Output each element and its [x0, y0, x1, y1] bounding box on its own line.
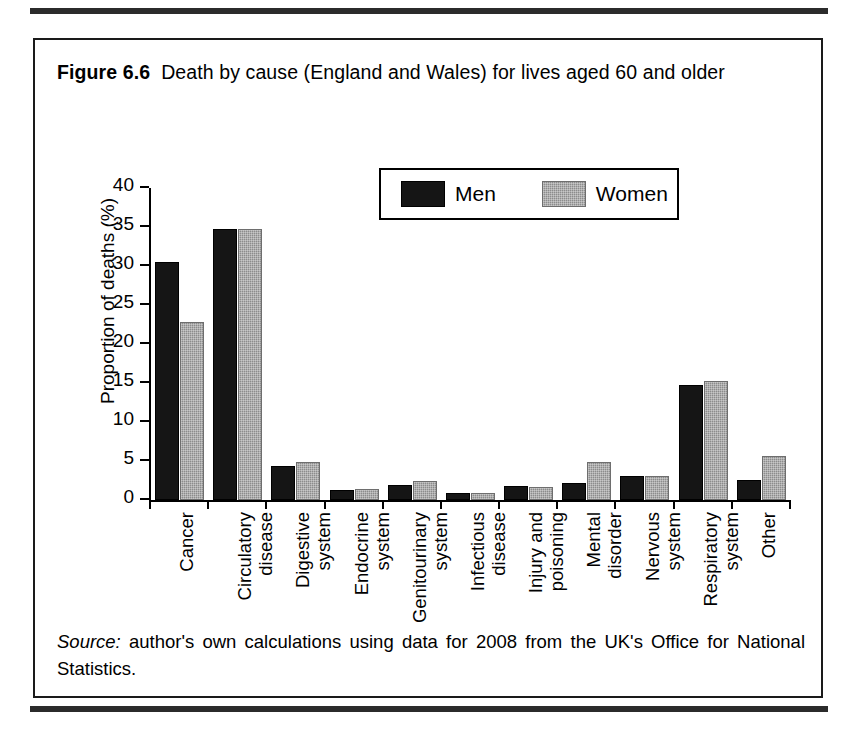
bar-group [382, 188, 440, 500]
y-tick-10: 10 [140, 420, 149, 422]
bar-group [731, 188, 789, 500]
x-tick [149, 500, 151, 509]
figure-caption: Figure 6.6 Death by cause (England and W… [57, 58, 797, 86]
y-tick-label-20: 20 [113, 330, 134, 352]
bar-women[interactable] [704, 381, 728, 500]
bar-men[interactable] [562, 483, 586, 500]
bar-group [498, 188, 556, 500]
y-tick-5: 5 [140, 459, 149, 461]
bar-women[interactable] [296, 462, 320, 500]
bar-women[interactable] [471, 493, 495, 500]
bar-group [324, 188, 382, 500]
bar-women[interactable] [587, 462, 611, 500]
y-tick-label-10: 10 [113, 408, 134, 430]
figure-caption-text: Death by cause (England and Wales) for l… [161, 61, 725, 83]
y-tick-25: 25 [140, 303, 149, 305]
x-tick [498, 500, 500, 509]
chart-axes: 0510152025303540 [149, 188, 789, 500]
figure-page: Figure 6.6 Death by cause (England and W… [0, 0, 858, 729]
y-tick-label-5: 5 [123, 447, 134, 469]
source-prefix: Source: [57, 631, 121, 652]
y-tick-label-35: 35 [113, 213, 134, 235]
x-tick [614, 500, 616, 509]
page-top-rule [30, 8, 828, 14]
bar-group [207, 188, 265, 500]
x-tick [556, 500, 558, 509]
bar-men[interactable] [213, 229, 237, 500]
y-tick-35: 35 [140, 225, 149, 227]
x-tick [382, 500, 384, 509]
bar-women[interactable] [355, 489, 379, 500]
bar-men[interactable] [330, 490, 354, 500]
y-tick-20: 20 [140, 342, 149, 344]
bar-women[interactable] [529, 487, 553, 500]
bar-men[interactable] [446, 493, 470, 500]
bar-group [556, 188, 614, 500]
figure-source: Source: author's own calculations using … [57, 628, 805, 682]
bar-men[interactable] [620, 476, 644, 500]
bar-women[interactable] [180, 322, 204, 500]
figure-container: Figure 6.6 Death by cause (England and W… [33, 38, 823, 698]
x-tick [731, 500, 733, 509]
x-tick [265, 500, 267, 509]
bar-group [673, 188, 731, 500]
y-tick-40: 40 [140, 186, 149, 188]
figure-number: Figure 6.6 [57, 61, 150, 83]
bar-group [440, 188, 498, 500]
bar-men[interactable] [737, 480, 761, 500]
bar-series-container [149, 188, 789, 500]
x-tick [789, 500, 791, 509]
bar-men[interactable] [271, 466, 295, 500]
x-tick [673, 500, 675, 509]
bar-men[interactable] [388, 485, 412, 500]
x-tick [324, 500, 326, 509]
page-bottom-rule [30, 706, 828, 712]
y-tick-15: 15 [140, 381, 149, 383]
bar-group [614, 188, 672, 500]
y-tick-label-0: 0 [123, 486, 134, 508]
y-tick-label-30: 30 [113, 252, 134, 274]
source-text: author's own calculations using data for… [57, 631, 805, 679]
y-tick-30: 30 [140, 264, 149, 266]
y-tick-label-15: 15 [113, 369, 134, 391]
y-tick-label-25: 25 [113, 291, 134, 313]
x-tick [440, 500, 442, 509]
bar-group [149, 188, 207, 500]
bar-men[interactable] [679, 385, 703, 500]
bar-group [265, 188, 323, 500]
y-tick-0: 0 [140, 498, 149, 500]
bar-men[interactable] [155, 262, 179, 500]
x-tick [207, 500, 209, 509]
bar-women[interactable] [238, 229, 262, 500]
x-axis-line [149, 500, 789, 502]
bar-women[interactable] [762, 456, 786, 500]
y-tick-label-40: 40 [113, 174, 134, 196]
bar-men[interactable] [504, 486, 528, 500]
bar-women[interactable] [413, 481, 437, 500]
chart-plot-area: Proportion of deaths (%) Men Women 05101… [57, 140, 803, 640]
bar-women[interactable] [645, 476, 669, 500]
